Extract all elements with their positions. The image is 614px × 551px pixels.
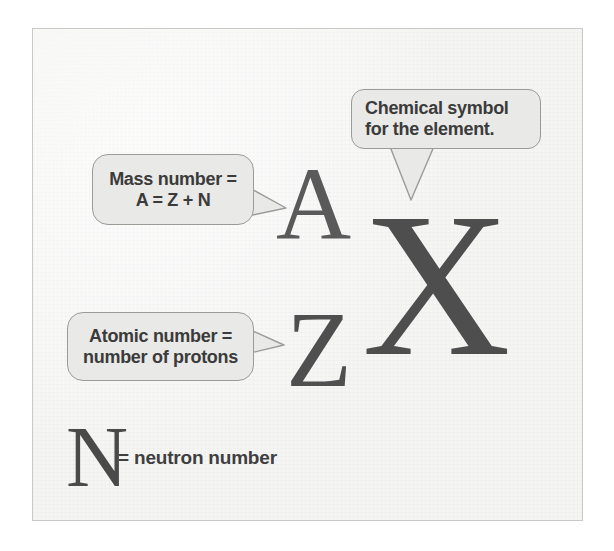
callout-atomic-number: Atomic number = number of protons bbox=[67, 312, 254, 381]
callout-mass-number-line2: A = Z + N bbox=[136, 190, 211, 211]
atomic-number-glyph: Z bbox=[286, 296, 352, 404]
callout-chemical-symbol-line1: Chemical symbol bbox=[365, 98, 509, 119]
figure-canvas: X A Z N = neutron number Chemical symbol… bbox=[0, 0, 614, 551]
callout-atomic-number-line2: number of protons bbox=[83, 347, 238, 368]
neutron-number-legend-label: = neutron number bbox=[118, 447, 277, 469]
mass-number-glyph: A bbox=[276, 152, 351, 256]
callout-chemical-symbol: Chemical symbol for the element. bbox=[351, 89, 541, 149]
callout-chemical-symbol-line2: for the element. bbox=[365, 119, 494, 140]
element-symbol-glyph: X bbox=[362, 182, 511, 388]
callout-mass-number: Mass number = A = Z + N bbox=[92, 154, 254, 225]
callout-atomic-number-line1: Atomic number = bbox=[89, 326, 232, 347]
callout-mass-number-line1: Mass number = bbox=[109, 169, 237, 190]
